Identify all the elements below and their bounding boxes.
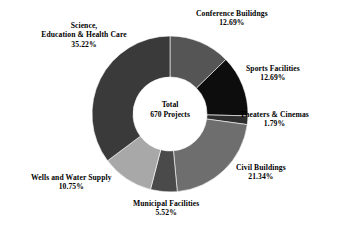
donut-slice-science-education-health-care[interactable] — [92, 36, 170, 161]
slice-label-sports-facilities-percent: 12.69% — [246, 73, 300, 82]
center-label-line1: Total — [132, 100, 208, 110]
slice-label-civil-buildings: Civil Buildings 21.34% — [236, 163, 286, 182]
slice-label-wells-water-supply-percent: 10.75% — [31, 182, 112, 191]
slice-label-conference-buildings-text: Conference Builidngs — [196, 9, 268, 18]
slice-label-municipal-facilities-text: Municipal Facilities — [133, 199, 199, 208]
slice-label-science-percent: 35.22% — [21, 40, 147, 49]
slice-label-theaters-cinemas: Theaters & Cinemas 1.79% — [240, 110, 309, 129]
center-label-line2: 670 Projects — [132, 110, 208, 120]
slice-label-sports-facilities-text: Sports Facilities — [246, 64, 300, 73]
slice-label-wells-water-supply: Wells and Water Supply 10.75% — [31, 173, 112, 192]
slice-label-conference-buildings-percent: 12.69% — [196, 18, 268, 27]
slice-label-conference-buildings: Conference Builidngs 12.69% — [196, 9, 268, 28]
donut-chart: Total 670 Projects Conference Builidngs … — [0, 0, 348, 228]
slice-label-civil-buildings-text: Civil Buildings — [236, 163, 286, 172]
slice-label-theaters-cinemas-text: Theaters & Cinemas — [240, 110, 309, 119]
slice-label-municipal-facilities: Municipal Facilities 5.52% — [133, 199, 199, 218]
slice-label-science-education-health-care: Science, Education & Health Care 35.22% — [21, 21, 147, 49]
slice-label-science-line2: Education & Health Care — [41, 30, 126, 39]
donut-center-label: Total 670 Projects — [132, 100, 208, 119]
slice-label-theaters-cinemas-percent: 1.79% — [240, 119, 309, 128]
slice-label-science-line1: Science, — [71, 21, 98, 30]
slice-label-wells-water-supply-text: Wells and Water Supply — [31, 173, 112, 182]
slice-label-sports-facilities: Sports Facilities 12.69% — [246, 64, 300, 83]
slice-label-municipal-facilities-percent: 5.52% — [133, 208, 199, 217]
slice-label-civil-buildings-percent: 21.34% — [236, 172, 286, 181]
